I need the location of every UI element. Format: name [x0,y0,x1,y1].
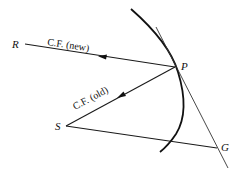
sg-line [66,126,217,148]
label-s: S [55,120,61,132]
label-p: P [180,60,188,72]
cf-new-line [25,44,175,67]
label-cf-old: C.F. (old) [71,84,111,113]
label-r: R [11,38,19,50]
label-cf-new: C.F. (new) [47,36,91,54]
orbit-diagram: R P S G C.F. (new) C.F. (old) [0,0,240,177]
cf-old-arrowhead [117,92,126,99]
label-g: G [221,141,229,153]
